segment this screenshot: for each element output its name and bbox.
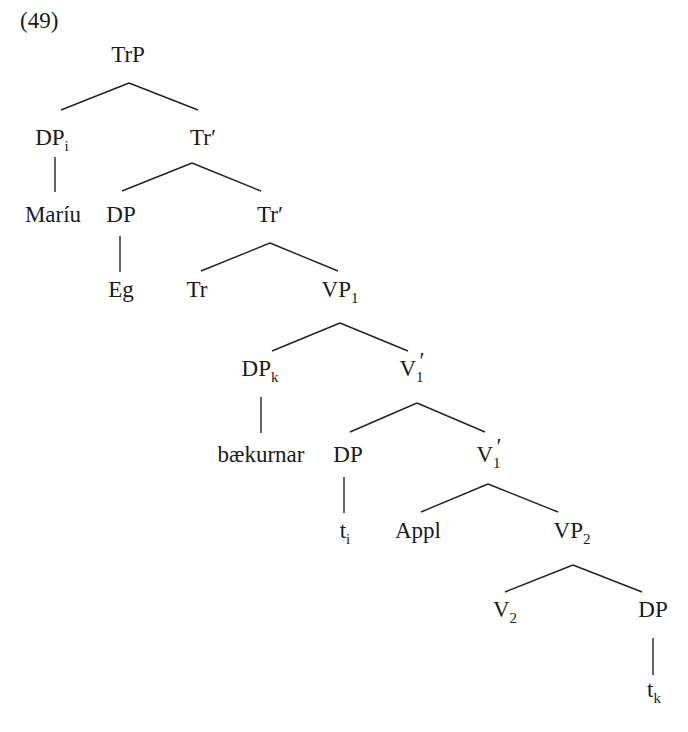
tree-node-n16: Appl — [395, 518, 441, 543]
tree-node-n9: VP1 — [322, 277, 359, 306]
tree-edge-n1-n2 — [61, 83, 129, 110]
tree-node-n8: Tr — [187, 277, 208, 302]
tree-node-n4: Maríu — [25, 202, 82, 227]
tree-node-n14: V1′ — [476, 434, 501, 471]
tree-edge-n14-n16 — [421, 484, 488, 512]
tree-node-n18: V2 — [493, 597, 517, 626]
tree-edge-n9-n11 — [340, 323, 408, 351]
tree-nodes: TrPDPiTr′MaríuDPTr′EgTrVP1DPkV1′bækurnar… — [25, 42, 668, 706]
tree-node-n17: VP2 — [554, 518, 591, 547]
example-number: (49) — [20, 8, 58, 33]
tree-edge-n11-n14 — [417, 403, 485, 432]
tree-node-n19: DP — [638, 597, 667, 622]
tree-node-n13: DP — [333, 442, 362, 467]
tree-node-n11: V1′ — [399, 348, 424, 385]
tree-node-n3: Tr′ — [190, 125, 216, 150]
tree-edge-n6-n8 — [201, 243, 270, 271]
tree-edge-n17-n18 — [505, 565, 573, 592]
tree-edge-n17-n19 — [573, 565, 642, 592]
tree-edge-n6-n9 — [270, 243, 338, 271]
tree-node-n1: TrP — [111, 42, 145, 67]
tree-node-n15: ti — [340, 518, 351, 547]
tree-edges — [55, 83, 653, 675]
tree-node-n12: bækurnar — [218, 442, 305, 467]
syntax-tree: (49) TrPDPiTr′MaríuDPTr′EgTrVP1DPkV1′bæk… — [0, 0, 688, 732]
tree-edge-n1-n3 — [129, 83, 198, 110]
tree-edge-n9-n10 — [272, 323, 340, 351]
tree-node-n2: DPi — [35, 125, 69, 154]
tree-edge-n11-n13 — [350, 403, 417, 432]
tree-edge-n3-n5 — [122, 163, 192, 191]
tree-edge-n14-n17 — [488, 484, 558, 512]
tree-node-n5: DP — [106, 202, 135, 227]
tree-node-n10: DPk — [242, 356, 279, 385]
tree-node-n6: Tr′ — [257, 202, 283, 227]
tree-node-n20: tk — [647, 677, 661, 706]
tree-node-n7: Eg — [108, 277, 134, 302]
tree-edge-n3-n6 — [192, 163, 261, 191]
